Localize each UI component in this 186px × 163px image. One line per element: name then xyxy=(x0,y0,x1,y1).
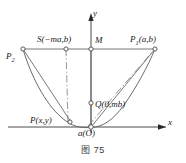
label-x-text: x xyxy=(168,117,172,127)
label-p2: P2 xyxy=(6,52,15,63)
point-marker-p1 xyxy=(153,47,157,51)
point-marker-s xyxy=(64,47,68,51)
figure-caption: 图 75 xyxy=(0,143,186,156)
dashdot-vertical-s xyxy=(66,49,68,123)
point-marker-q xyxy=(89,101,93,105)
label-q-text: Q(0,mb) xyxy=(95,99,125,109)
label-p2-subscript: 2 xyxy=(12,56,15,63)
label-p1-coords: (a,b) xyxy=(139,34,156,44)
label-p-point: P(x,y) xyxy=(30,116,52,125)
label-p-text: P(x,y) xyxy=(30,115,52,125)
label-m-point: M xyxy=(95,36,103,45)
geometry-diagram xyxy=(0,0,186,163)
point-marker-p2 xyxy=(21,47,25,51)
point-marker-p xyxy=(68,120,72,124)
label-y-text: y xyxy=(93,8,97,18)
segment-p2-p xyxy=(23,49,71,122)
segment-origin-p1 xyxy=(91,49,155,127)
label-q-point: Q(0,mb) xyxy=(95,100,125,109)
point-marker-m xyxy=(89,47,93,51)
label-origin-text: a(O) xyxy=(78,128,95,138)
label-m-text: M xyxy=(95,35,103,45)
label-x-axis: x xyxy=(168,118,172,127)
label-p1-point: P1(a,b) xyxy=(130,35,156,46)
label-s-point: S(−ma,b) xyxy=(37,35,71,44)
dashdot-diagonal-q-p1 xyxy=(88,50,154,126)
label-origin: a(O) xyxy=(78,129,95,138)
label-s-text: S(−ma,b) xyxy=(37,34,71,44)
label-y-axis: y xyxy=(93,9,97,18)
figure-container: P2 S(−ma,b) M P1(a,b) Q(0,mb) P(x,y) a(O… xyxy=(0,0,186,163)
